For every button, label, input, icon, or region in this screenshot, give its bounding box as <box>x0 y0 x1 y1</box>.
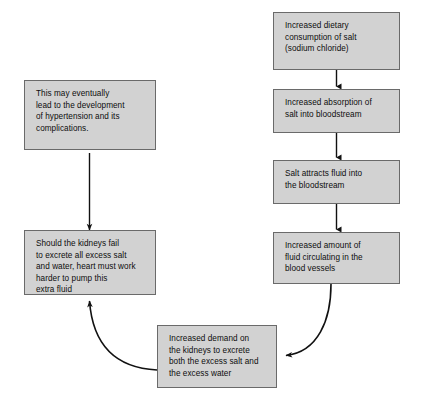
connector-kidney-demand-to-heart-work <box>90 301 158 370</box>
flowchart-diagram: Increased dietary consumption of salt (s… <box>0 0 423 414</box>
node-salt-intake: Increased dietary consumption of salt (s… <box>273 12 400 70</box>
node-hypertension-label: This may eventually lead to the developm… <box>36 88 155 134</box>
node-salt-intake-label: Increased dietary consumption of salt (s… <box>285 20 399 55</box>
node-kidney-demand-label: Increased demand on the kidneys to excre… <box>169 333 276 379</box>
node-fluid-amount-label: Increased amount of fluid circulating in… <box>285 240 399 275</box>
node-attract-fluid-label: Salt attracts fluid into the bloodstream <box>285 168 399 191</box>
node-fluid-amount: Increased amount of fluid circulating in… <box>273 232 400 284</box>
connector-fluid-amount-to-kidney-demand <box>286 284 331 356</box>
node-hypertension: This may eventually lead to the developm… <box>24 80 156 150</box>
node-heart-work-label: Should the kidneys fail to excrete all e… <box>36 238 155 296</box>
node-heart-work: Should the kidneys fail to excrete all e… <box>24 230 156 295</box>
node-absorption: Increased absorption of salt into bloods… <box>273 89 400 133</box>
node-absorption-label: Increased absorption of salt into bloods… <box>285 97 399 120</box>
node-kidney-demand: Increased demand on the kidneys to excre… <box>157 325 277 388</box>
node-attract-fluid: Salt attracts fluid into the bloodstream <box>273 160 400 204</box>
